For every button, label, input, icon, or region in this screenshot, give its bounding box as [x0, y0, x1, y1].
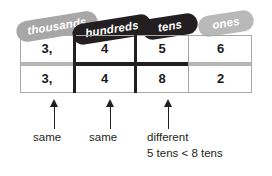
arrow-shaft [168, 105, 169, 129]
row-separator-black [73, 62, 189, 66]
column-divider-tens-ones [188, 35, 189, 93]
cell-thousands-row2: 3, [20, 66, 74, 92]
cell-tens-row2: 8 [135, 66, 189, 92]
place-value-diagram: thousands hundreds tens ones 3, 4 5 6 3,… [0, 0, 272, 176]
place-value-header-ones: ones [197, 9, 256, 39]
table-border-left [20, 35, 21, 93]
table-border-right [251, 35, 252, 93]
pointer-arrow-tens [163, 99, 174, 129]
annotation-label-tens: different [147, 131, 188, 143]
cell-thousands-row1: 3, [20, 36, 74, 62]
arrow-shaft [54, 105, 55, 129]
column-divider-hundreds-tens [134, 35, 137, 93]
annotation-detail-tens: 5 tens < 8 tens [147, 147, 223, 159]
cell-tens-row1: 5 [135, 36, 189, 62]
place-value-table: 3, 4 5 6 3, 4 8 2 [20, 36, 252, 92]
arrow-shaft [110, 105, 111, 129]
cell-ones-row1: 6 [189, 36, 252, 62]
column-divider-thousands-hundreds [73, 35, 76, 93]
pointer-arrow-thousands [49, 99, 60, 129]
cell-hundreds-row2: 4 [74, 66, 135, 92]
annotation-label-thousands: same [33, 131, 61, 143]
cell-hundreds-row1: 4 [74, 36, 135, 62]
pointer-arrow-hundreds [105, 99, 116, 129]
annotation-label-hundreds: same [89, 131, 117, 143]
cell-ones-row2: 2 [189, 66, 252, 92]
